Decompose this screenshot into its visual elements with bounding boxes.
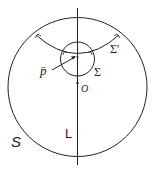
- origin-point: [76, 82, 78, 84]
- label-surface-sigma-prime: Σ': [110, 43, 119, 55]
- right-angle-mark-outer-left: [35, 34, 41, 38]
- label-inner-sigma: Σ: [94, 66, 101, 78]
- label-origin-o: O: [81, 84, 88, 94]
- label-line-l: L: [65, 127, 72, 140]
- diagram-canvas: [0, 0, 157, 174]
- right-angle-mark-outer-right: [114, 34, 120, 38]
- label-point-p: p̄: [40, 64, 47, 77]
- center-point: [77, 56, 79, 58]
- label-outer-s: S: [11, 134, 21, 149]
